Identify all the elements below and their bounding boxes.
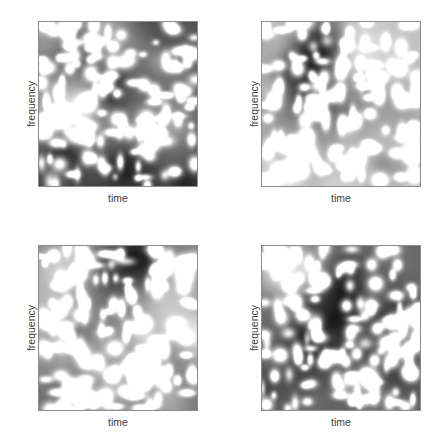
chart-panel-top-right: frequency time bbox=[222, 0, 444, 219]
heatmap-image-2 bbox=[39, 246, 197, 410]
heatmap-plot-area-2 bbox=[38, 245, 198, 411]
x-axis-label-3: time bbox=[261, 416, 421, 428]
figure-panel-grid: frequency time frequency time frequency … bbox=[0, 0, 444, 439]
heatmap-image-3 bbox=[262, 246, 420, 410]
x-axis-label-1: time bbox=[261, 192, 421, 204]
chart-panel-bottom-left: frequency time bbox=[0, 220, 222, 439]
heatmap-plot-area-0 bbox=[38, 21, 198, 187]
chart-panel-bottom-right: frequency time bbox=[222, 220, 444, 439]
heatmap-image-0 bbox=[39, 22, 197, 186]
heatmap-plot-area-1 bbox=[261, 21, 421, 187]
x-axis-label-2: time bbox=[38, 416, 198, 428]
heatmap-plot-area-3 bbox=[261, 245, 421, 411]
chart-panel-top-left: frequency time bbox=[0, 0, 222, 219]
y-axis-label-1: frequency bbox=[247, 21, 261, 187]
heatmap-image-1 bbox=[262, 22, 420, 186]
y-axis-label-0: frequency bbox=[24, 21, 38, 187]
x-axis-label-0: time bbox=[38, 192, 198, 204]
y-axis-label-2: frequency bbox=[24, 245, 38, 411]
y-axis-label-3: frequency bbox=[247, 245, 261, 411]
